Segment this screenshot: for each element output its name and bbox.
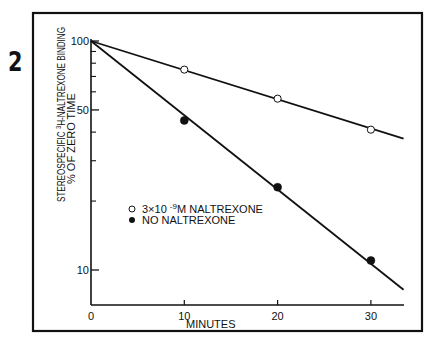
legend: 3×10 -9M NALTREXONE NO NALTREXONE	[129, 202, 263, 226]
open-circle-marker-icon	[181, 66, 188, 73]
legend-filled-circle-icon	[129, 217, 135, 223]
fit-lines	[91, 41, 404, 290]
filled-circle-marker-icon	[367, 257, 375, 265]
axis-ticks: 10050100102030	[71, 35, 377, 322]
legend-label-no-naltrexone: NO NALTREXONE	[142, 214, 235, 226]
figure-number: 2	[8, 47, 22, 77]
fit-line-naltrexone	[91, 41, 404, 139]
y-axis-label: STEREOSPECIFIC 3H-NALTREXONE BINDING % O…	[54, 27, 77, 202]
y-axis-label-line2: % OF ZERO TIME	[65, 93, 77, 184]
open-circle-marker-icon	[274, 95, 281, 102]
open-circle-marker-icon	[367, 126, 374, 133]
y-tick-label: 100	[71, 35, 89, 47]
filled-circle-marker-icon	[180, 116, 188, 124]
x-tick-label: 30	[365, 310, 377, 322]
y-tick-label: 50	[77, 104, 89, 116]
x-tick-label: 20	[271, 310, 283, 322]
filled-circle-marker-icon	[274, 183, 282, 191]
data-markers	[180, 66, 375, 265]
figure: 10050100102030 3×10 -9M NALTREXONE NO NA…	[0, 0, 436, 356]
y-tick-label: 10	[77, 264, 89, 276]
fit-line-no-naltrexone	[91, 41, 404, 290]
legend-open-circle-icon	[129, 206, 135, 212]
x-tick-label: 0	[88, 310, 94, 322]
x-axis-label: MINUTES	[186, 318, 236, 330]
